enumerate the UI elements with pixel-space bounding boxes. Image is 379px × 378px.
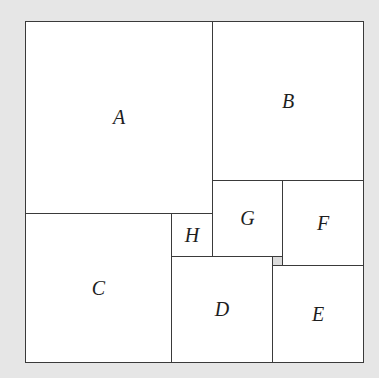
square-b: B [212, 21, 364, 181]
square-h: H [171, 213, 213, 257]
square-e: E [272, 265, 364, 363]
square-c-label: C [92, 277, 105, 300]
square-d-label: D [215, 298, 229, 321]
square-a: A [25, 21, 213, 214]
square-g-label: G [240, 207, 254, 230]
square-a-label: A [113, 106, 125, 129]
square-h-label: H [185, 224, 199, 247]
square-c: C [25, 213, 172, 363]
square-b-label: B [282, 90, 294, 113]
square-d: D [171, 256, 273, 363]
square-f: F [282, 180, 364, 266]
square-e-label: E [312, 303, 324, 326]
square-f-label: F [317, 212, 329, 235]
square-g: G [212, 180, 283, 257]
square-tiny [272, 256, 283, 266]
